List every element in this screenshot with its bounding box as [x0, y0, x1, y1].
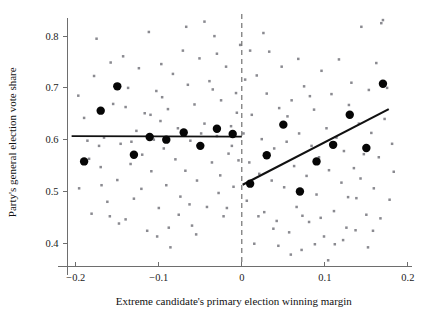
data-point	[253, 242, 256, 245]
data-point	[275, 220, 278, 223]
data-point	[313, 108, 316, 111]
data-point	[159, 120, 162, 123]
data-point	[262, 32, 265, 35]
data-point	[273, 147, 276, 150]
data-point	[90, 212, 93, 215]
data-point	[138, 67, 141, 70]
data-point	[98, 145, 101, 148]
data-point	[379, 80, 387, 88]
data-point	[189, 139, 192, 142]
left-fit-line	[72, 136, 242, 137]
data-point	[198, 57, 201, 60]
data-point	[257, 215, 260, 218]
data-point	[109, 61, 112, 64]
data-point	[124, 218, 127, 221]
data-point	[156, 235, 159, 238]
data-point	[219, 174, 222, 177]
data-point	[206, 206, 209, 209]
data-point	[260, 138, 263, 141]
data-point	[248, 161, 251, 164]
y-tick-label: 0.8	[45, 31, 58, 42]
data-point	[99, 166, 102, 169]
data-point	[80, 157, 88, 165]
data-point	[242, 132, 245, 135]
data-point	[208, 80, 211, 83]
data-point	[323, 235, 326, 238]
data-point	[310, 145, 313, 148]
data-point	[118, 222, 121, 225]
data-point	[226, 207, 229, 210]
data-point	[246, 200, 249, 203]
data-point	[312, 157, 320, 165]
data-point	[300, 249, 303, 252]
data-point	[129, 163, 132, 166]
data-point	[383, 118, 386, 121]
data-point	[270, 179, 273, 182]
x-tick-label: 0	[239, 272, 244, 283]
data-point	[303, 85, 306, 88]
data-point	[97, 106, 105, 114]
data-point	[373, 187, 376, 190]
data-point	[268, 50, 271, 53]
data-point	[272, 227, 275, 230]
data-point	[256, 74, 258, 77]
data-point	[246, 179, 254, 187]
data-point	[188, 203, 191, 206]
data-point	[212, 88, 215, 91]
x-tick-label: −0.1	[149, 272, 168, 283]
data-point	[251, 114, 254, 117]
data-point	[88, 158, 91, 161]
data-point	[106, 201, 109, 204]
data-point	[193, 103, 196, 106]
data-point	[348, 104, 351, 107]
data-point	[370, 132, 373, 135]
data-point	[296, 187, 304, 195]
data-point	[172, 73, 175, 76]
data-point	[353, 167, 356, 170]
data-point	[379, 217, 382, 220]
data-point	[179, 195, 182, 198]
data-point	[327, 259, 330, 262]
data-point	[203, 122, 206, 125]
data-point	[191, 224, 194, 227]
data-point	[130, 140, 133, 143]
data-point	[363, 153, 366, 156]
data-point	[297, 58, 300, 61]
data-point	[346, 111, 354, 119]
data-point	[350, 81, 353, 84]
data-point	[334, 243, 337, 246]
data-point	[163, 147, 166, 150]
data-point	[109, 215, 112, 218]
data-point	[167, 108, 170, 111]
data-point	[225, 65, 228, 68]
data-point	[228, 130, 236, 138]
data-point	[286, 115, 289, 118]
data-point	[182, 49, 185, 52]
data-point	[340, 181, 343, 184]
data-point	[86, 139, 89, 142]
data-point	[293, 165, 296, 168]
data-point	[298, 132, 301, 135]
data-point	[244, 78, 247, 81]
data-point	[113, 82, 121, 90]
data-point	[265, 92, 268, 95]
data-point	[279, 120, 287, 128]
data-point	[177, 213, 180, 216]
data-point	[237, 159, 240, 162]
data-point	[165, 184, 168, 187]
data-point	[222, 215, 225, 218]
data-point	[195, 233, 198, 236]
data-point	[345, 226, 348, 229]
data-point	[328, 169, 331, 172]
data-point	[162, 135, 170, 143]
data-point	[305, 175, 308, 178]
data-point	[354, 229, 357, 232]
data-point	[285, 140, 288, 143]
data-point	[93, 75, 96, 78]
data-point	[320, 70, 323, 73]
data-point	[140, 188, 143, 191]
data-point	[158, 207, 161, 210]
data-point	[100, 184, 103, 187]
data-point	[200, 132, 203, 135]
data-point	[367, 246, 370, 249]
